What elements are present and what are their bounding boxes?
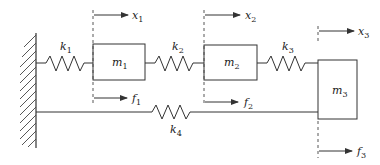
mass-m3: m3 [318,60,357,119]
force-f2-label: f2 [243,96,253,111]
displacement-x2: x2 [205,9,256,24]
spring-k4-label: k4 [170,123,182,138]
spring-k1-label: k1 [60,40,72,55]
reference-lines [93,10,318,158]
force-f1: f1 [94,92,141,107]
force-f2: f2 [205,96,253,111]
force-f3-label: f3 [356,145,366,160]
spring-k4: k4 [36,105,318,138]
displacement-x1-label: x1 [132,9,143,24]
spring-k3-label: k3 [282,40,294,55]
displacement-x1: x1 [94,9,143,24]
mass-m1: m1 [93,44,145,80]
spring-k2: k2 [145,40,204,71]
mass-spring-diagram: k1 m1 k2 m2 k3 m3 k4 x1 [0,0,380,165]
displacement-x2-label: x2 [245,9,256,24]
force-f3: f3 [319,145,366,160]
spring-k2-label: k2 [172,40,184,55]
fixed-wall [20,33,36,148]
spring-k1: k1 [36,40,93,71]
mass-m2: m2 [204,45,257,80]
spring-k3: k3 [257,40,318,71]
displacement-x3: x3 [319,25,369,40]
force-f1-label: f1 [131,92,141,107]
displacement-x3-label: x3 [358,25,369,40]
